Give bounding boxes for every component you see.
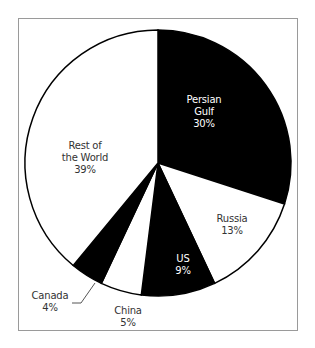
slice-label-us: US 9% (175, 253, 190, 277)
slice-label-russia: Russia 13% (217, 213, 248, 237)
slice-label-china: China 5% (114, 305, 142, 329)
slice-label-canada: Canada 4% (32, 290, 69, 314)
slice-label-rest-of-the-world: Rest of the World 39% (62, 140, 108, 176)
leader-line-canada (72, 283, 95, 303)
slice-label-persian-gulf: Persian Gulf 30% (187, 94, 222, 130)
